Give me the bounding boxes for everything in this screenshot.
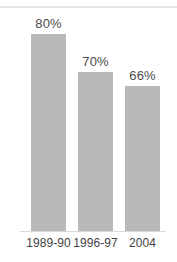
bar-chart: 80% 70% 66% 1989-90 1996-97 2004 (0, 0, 177, 262)
bar-value-label-2: 66% (116, 68, 169, 83)
bar-0 (31, 34, 66, 232)
bar-value-label-1: 70% (69, 54, 122, 69)
bar-group-0: 80% (31, 0, 66, 232)
bar-group-1: 70% (78, 0, 113, 232)
x-axis-baseline (20, 231, 166, 232)
x-axis-tick-label-2: 2004 (113, 236, 172, 250)
bar-value-label-0: 80% (22, 16, 75, 31)
x-axis-tick-labels: 1989-90 1996-97 2004 (0, 236, 177, 256)
plot-area: 80% 70% 66% (0, 0, 177, 232)
bar-1 (78, 72, 113, 232)
bar-group-2: 66% (125, 0, 160, 232)
bar-2 (125, 86, 160, 232)
